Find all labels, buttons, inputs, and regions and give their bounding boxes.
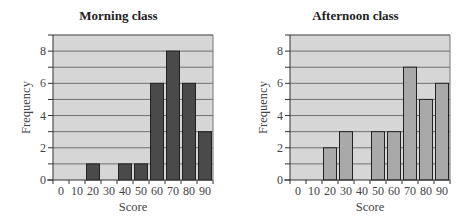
y-tick-label: 0	[277, 173, 283, 187]
x-tick-label: 20	[87, 184, 99, 198]
histogram-bar	[436, 83, 449, 180]
histogram-bar	[183, 83, 196, 180]
x-tick-label: 40	[119, 184, 131, 198]
x-axis-title: Score	[119, 200, 148, 214]
y-tick-label: 8	[40, 44, 46, 58]
x-tick-label: 30	[340, 184, 352, 198]
afternoon-class-chart: Afternoon class 024680102030405060708090…	[237, 0, 474, 218]
morning-class-chart: Morning class 024680102030405060708090Sc…	[0, 0, 237, 218]
x-tick-label: 0	[58, 184, 64, 198]
y-tick-label: 8	[277, 44, 283, 58]
x-tick-label: 70	[167, 184, 179, 198]
histogram-bar	[87, 164, 100, 180]
y-tick-label: 6	[277, 76, 283, 90]
histogram-bar	[388, 132, 401, 180]
x-tick-label: 10	[71, 184, 83, 198]
x-tick-label: 80	[183, 184, 195, 198]
x-tick-label: 90	[199, 184, 211, 198]
y-axis-title: Frequency	[256, 80, 270, 134]
x-tick-label: 30	[103, 184, 115, 198]
y-tick-label: 0	[40, 173, 46, 187]
histogram-bar	[420, 99, 433, 180]
y-tick-label: 2	[277, 141, 283, 155]
histogram-bar	[151, 83, 164, 180]
y-tick-label: 6	[40, 76, 46, 90]
y-tick-label: 2	[40, 141, 46, 155]
x-tick-label: 70	[404, 184, 416, 198]
x-tick-label: 0	[295, 184, 301, 198]
histogram-bar	[404, 67, 417, 180]
histogram-bar	[167, 51, 180, 180]
histogram-bar	[119, 164, 132, 180]
x-tick-label: 90	[436, 184, 448, 198]
y-tick-label: 4	[277, 109, 283, 123]
y-tick-label: 4	[40, 109, 46, 123]
histogram-bar	[199, 132, 212, 180]
histogram-bar	[135, 164, 148, 180]
x-tick-label: 60	[151, 184, 163, 198]
histogram-plot: 024680102030405060708090ScoreFrequency	[0, 0, 237, 218]
x-tick-label: 50	[135, 184, 147, 198]
histogram-plot: 024680102030405060708090ScoreFrequency	[237, 0, 474, 218]
histogram-bar	[372, 132, 385, 180]
histogram-bar	[324, 148, 337, 180]
x-tick-label: 60	[388, 184, 400, 198]
x-axis-title: Score	[356, 200, 385, 214]
y-axis-title: Frequency	[19, 80, 33, 134]
histogram-bar	[340, 132, 353, 180]
x-tick-label: 40	[356, 184, 368, 198]
x-tick-label: 10	[308, 184, 320, 198]
x-tick-label: 80	[420, 184, 432, 198]
x-tick-label: 50	[372, 184, 384, 198]
x-tick-label: 20	[324, 184, 336, 198]
